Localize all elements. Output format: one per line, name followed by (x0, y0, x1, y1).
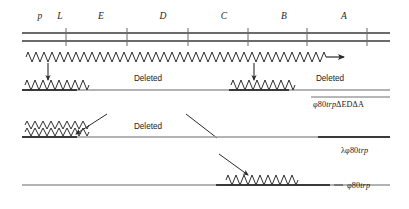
phage-label-phi80trp: φ80trp (347, 181, 370, 190)
deleted-label-row2-right: Deleted (316, 74, 344, 83)
retained-zigzag (226, 175, 298, 185)
phage-italic: trp (360, 181, 370, 190)
figure-canvas: p L E D C B A Deleted Deleted Deleted φ8… (0, 0, 409, 209)
phage-suffix: ΔEDΔA (336, 100, 364, 109)
row-phi80trp (22, 175, 390, 185)
phage-label-lambda-phi80trp: λφ80trp (341, 146, 368, 155)
transcript-zigzag (26, 52, 326, 62)
phage-label-phi80trp-dED-dA: φ80trpΔEDΔA (313, 100, 364, 109)
reference-chromosome-row (22, 28, 390, 46)
diagonal-arrow (76, 114, 107, 134)
phage-prefix: φ80 (347, 181, 360, 190)
phage-prefix: λφ80 (341, 146, 358, 155)
gene-boundary-ticks (66, 28, 367, 46)
diagonal-line (186, 114, 217, 138)
deleted-label-row3: Deleted (134, 122, 162, 131)
retained-zigzag (231, 80, 295, 90)
deleted-label-row2-left: Deleted (134, 74, 162, 83)
gene-label-L: L (57, 11, 62, 21)
gene-label-E: E (98, 11, 104, 21)
gene-label-A: A (341, 11, 347, 21)
gene-label-D: D (159, 11, 166, 21)
diagonal-arrow (219, 154, 248, 175)
phage-italic: trp (326, 100, 336, 109)
gene-label-C: C (221, 11, 228, 21)
transcript-zigzag-arrow (26, 52, 344, 62)
phage-italic: trp (358, 146, 368, 155)
gene-label-p: p (38, 11, 43, 21)
phage-prefix: φ80 (313, 100, 326, 109)
gene-label-B: B (281, 11, 287, 21)
retained-zigzag (25, 80, 89, 90)
